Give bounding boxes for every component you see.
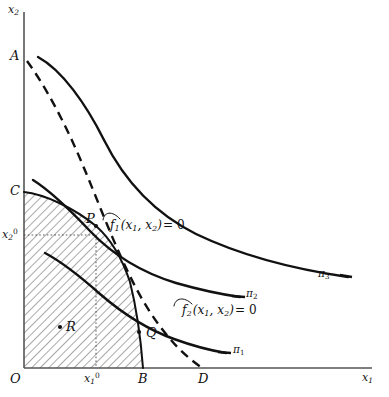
diagram-svg: [0, 0, 389, 397]
point-label-P: P: [86, 212, 95, 225]
y-tick-label-C: C: [10, 184, 20, 197]
curve-label-f1-equation: f1 (x1, x2) = 0: [110, 219, 185, 232]
curve-label-pi1: π1: [233, 344, 244, 356]
y-tick-label-x2-optimum: x20: [2, 228, 18, 242]
pi1-leader: [218, 352, 231, 353]
x-tick-label-B: B: [138, 372, 148, 385]
curve-label-pi2: π2: [246, 288, 257, 300]
y-tick-label-A: A: [10, 49, 19, 62]
point-label-Q: Q: [146, 326, 157, 339]
point-R-marker: [58, 325, 62, 329]
pi2-leader: [232, 296, 245, 297]
x-tick-label-x1-optimum: x10: [84, 372, 100, 386]
y-axis-label: x2: [8, 4, 19, 17]
point-label-R: R: [66, 320, 76, 333]
figure-canvas: x2 A C x20 O x10 B D x1 P Q R π3 π2 π1 f…: [0, 0, 389, 397]
x-tick-label-D: D: [198, 372, 208, 385]
origin-label: O: [10, 372, 21, 385]
x-axis-label: x1: [362, 372, 373, 385]
curve-label-pi3: π3: [318, 268, 329, 280]
curve-label-f2-equation: f2 (x1, x2) = 0: [182, 304, 257, 317]
point-Q-marker: [137, 330, 141, 334]
